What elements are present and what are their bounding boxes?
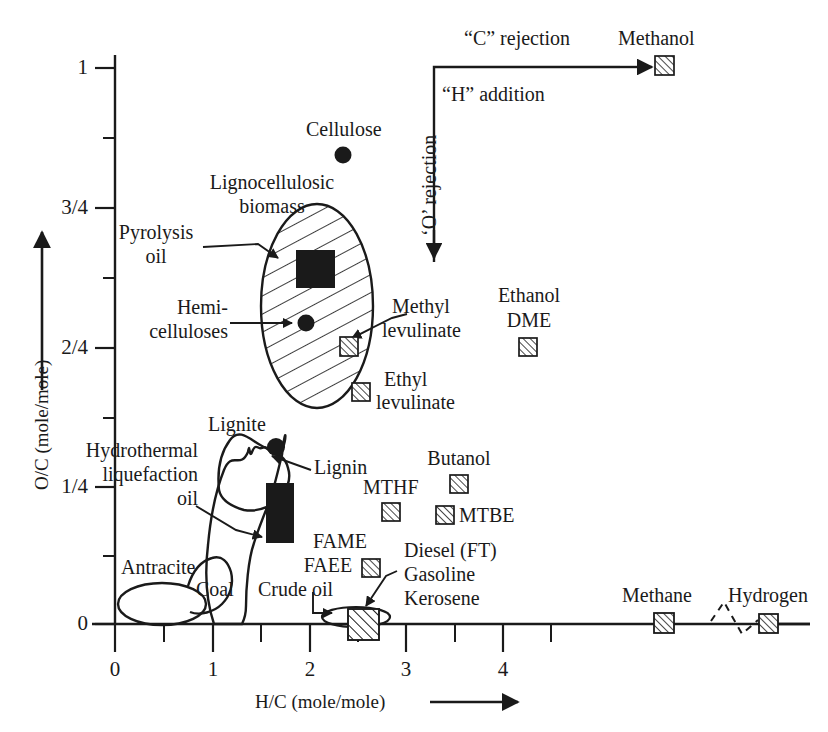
van-krevelen-diagram: 1 3/4 2/4 1/4 0 0 1 2 3 4 O/C (mole/mole… <box>0 0 828 732</box>
label-cellulose: Cellulose <box>306 119 382 141</box>
label-ethyl-levulinate: levulinate <box>376 392 455 414</box>
label-methanol: Methanol <box>618 28 695 50</box>
label-coal: Coal <box>196 579 234 601</box>
label-diesel: Diesel (FT) <box>404 540 497 562</box>
x-tick-label-0: 0 <box>95 658 135 681</box>
y-tick-label-1: 1 <box>50 56 88 79</box>
label-celluloses: celluloses <box>100 321 228 343</box>
label-faee: FAEE <box>288 555 368 577</box>
marker-pyrolysis-oil <box>296 250 335 288</box>
label-mtbe: MTBE <box>459 505 515 527</box>
label-methyl-levulinate: levulinate <box>382 320 461 342</box>
marker-methyl-levulinate <box>340 337 358 356</box>
label-pyrolysis-oil: oil <box>110 246 202 268</box>
label-lignite: Lignite <box>208 414 266 436</box>
marker-mthf <box>382 503 400 521</box>
y-tick-label-3-4: 3/4 <box>36 196 88 219</box>
label-ethanol: Ethanol <box>484 285 574 307</box>
x-tick-label-3: 3 <box>386 658 426 681</box>
x-axis-title: H/C (mole/mole) <box>255 692 385 713</box>
o-rejection-label: ‘O’ rejection <box>419 135 441 236</box>
label-gasoline: Gasoline <box>404 564 475 586</box>
label-fame: FAME <box>300 531 380 553</box>
y-axis-title: O/C (mole/mole) <box>32 360 53 490</box>
marker-hydrogen <box>759 614 778 633</box>
marker-mtbe <box>436 506 454 524</box>
label-hemi: Hemi- <box>112 297 228 319</box>
label-butanol: Butanol <box>416 448 502 470</box>
marker-methane <box>654 613 674 633</box>
label-hydrothermal-oil: oil <box>76 488 198 510</box>
label-ethyl: Ethyl <box>384 369 427 391</box>
label-biomass: biomass <box>176 196 368 218</box>
marker-butanol <box>450 475 468 493</box>
y-tick-label-2-4: 2/4 <box>36 336 88 359</box>
label-lignin: Lignin <box>314 457 367 479</box>
x-axis-ticks <box>115 624 503 652</box>
h-addition-label: “H” addition <box>442 84 545 106</box>
label-dme: DME <box>484 310 574 332</box>
label-lignocellulosic: Lignocellulosic <box>176 172 368 194</box>
label-kerosene: Kerosene <box>404 588 480 610</box>
y-tick-label-0: 0 <box>50 612 88 635</box>
x-tick-label-4: 4 <box>483 658 523 681</box>
marker-diesel-gasoline-kerosene <box>348 609 379 640</box>
label-hydrothermal: Hydrothermal <box>76 440 198 462</box>
marker-lignin <box>267 438 285 456</box>
c-rejection-label: “C” rejection <box>464 28 570 50</box>
x-tick-label-2: 2 <box>290 658 330 681</box>
marker-ethyl-levulinate <box>352 383 370 401</box>
marker-hemicelluloses <box>298 315 315 332</box>
marker-ethanol-dme <box>519 338 537 356</box>
y-axis-ticks <box>95 68 115 624</box>
marker-hydrothermal-liquefaction-oil <box>266 483 294 543</box>
marker-cellulose <box>335 147 352 164</box>
label-liquefaction: liquefaction <box>76 464 198 486</box>
label-antracite: Antracite <box>121 557 195 579</box>
label-mthf: MTHF <box>363 477 419 499</box>
marker-methanol <box>655 56 674 75</box>
x-tick-label-1: 1 <box>193 658 233 681</box>
label-crude-oil: Crude oil <box>258 579 333 601</box>
label-hydrogen: Hydrogen <box>728 585 808 607</box>
chart-canvas <box>0 0 828 732</box>
region-lignocellulosic-biomass <box>261 204 373 408</box>
label-methane: Methane <box>622 585 692 607</box>
label-methyl: Methyl <box>392 296 450 318</box>
label-pyrolysis: Pyrolysis <box>110 222 202 244</box>
